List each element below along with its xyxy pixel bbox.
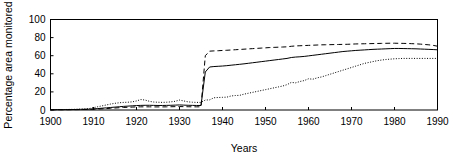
series-line-dashed (51, 43, 438, 110)
x-axis-title: Years (231, 142, 257, 154)
x-tick-label: 1980 (383, 116, 406, 127)
y-tick-label: 100 (29, 14, 46, 25)
y-tick-label: 20 (34, 86, 46, 97)
y-axis-tick-labels: 020406080100 (29, 14, 46, 116)
x-tick-label: 1930 (168, 116, 191, 127)
plot-frame (51, 20, 438, 111)
y-tick-label: 0 (40, 105, 46, 116)
x-tick-label: 1940 (211, 116, 234, 127)
x-axis-tick-labels: 1900191019201930194019501960197019801990 (39, 116, 449, 127)
x-tick-label: 1950 (254, 116, 277, 127)
chart-figure: 020406080100 190019101920193019401950196… (0, 0, 460, 160)
series-line-dotted (51, 58, 438, 109)
y-tick-label: 60 (34, 50, 46, 61)
x-tick-label: 1900 (39, 116, 62, 127)
data-series-group (51, 43, 438, 110)
y-axis-title: Percentage area monitored (2, 1, 14, 128)
x-tick-label: 1990 (426, 116, 449, 127)
x-tick-label: 1960 (297, 116, 320, 127)
x-tick-label: 1910 (82, 116, 105, 127)
line-chart: 020406080100 190019101920193019401950196… (0, 0, 460, 160)
series-line-solid (51, 48, 438, 109)
y-tick-label: 40 (34, 68, 46, 79)
y-tick-label: 80 (34, 32, 46, 43)
x-tick-label: 1970 (340, 116, 363, 127)
x-tick-label: 1920 (125, 116, 148, 127)
